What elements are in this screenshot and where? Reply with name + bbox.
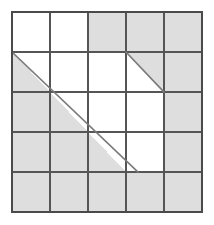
cell-fill-layer: [12, 12, 202, 212]
cell-c2-r2-unshaded: [88, 92, 126, 132]
cell-c1-r3-shaded: [50, 132, 88, 172]
cell-c3-r4-shaded: [126, 172, 164, 212]
cell-c4-r1-shaded: [164, 52, 202, 92]
cell-c0-r0-unshaded: [12, 12, 50, 52]
cell-c1-r0-unshaded: [50, 12, 88, 52]
cell-c4-r0-shaded: [164, 12, 202, 52]
cell-c3-r2-unshaded: [126, 92, 164, 132]
cell-c1-r4-shaded: [50, 172, 88, 212]
cell-c4-r3-shaded: [164, 132, 202, 172]
cell-c2-r1-unshaded: [88, 52, 126, 92]
cell-c0-r4-shaded: [12, 172, 50, 212]
cell-c0-r3-shaded: [12, 132, 50, 172]
cell-c4-r4-shaded: [164, 172, 202, 212]
grid-canvas: [0, 0, 214, 225]
cell-c2-r0-shaded: [88, 12, 126, 52]
grid-figure: [0, 0, 214, 225]
cell-c2-r4-shaded: [88, 172, 126, 212]
cell-c1-r1-unshaded: [50, 52, 88, 92]
cell-c0-r2-shaded: [12, 92, 50, 132]
cell-c3-r0-shaded: [126, 12, 164, 52]
cell-c4-r2-shaded: [164, 92, 202, 132]
